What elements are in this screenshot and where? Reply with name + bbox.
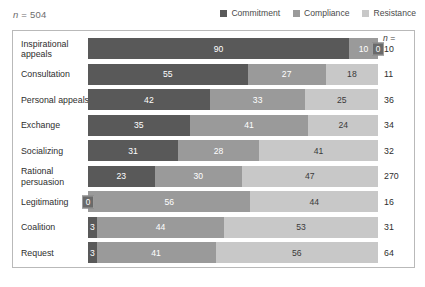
row-n-value: 36 [384, 95, 412, 105]
segment-value: 24 [338, 120, 348, 130]
legend-swatch-compliance [293, 10, 300, 17]
segment-value: 42 [144, 95, 154, 105]
sample-size-label: n = 504 [13, 9, 46, 20]
segment-commitment[interactable]: 42 [88, 89, 210, 110]
segment-value: 3 [90, 222, 95, 232]
legend-item-compliance[interactable]: Compliance [293, 8, 349, 18]
chart-row: Personal appeals 42 33 25 36 [12, 89, 415, 110]
segment-resistance[interactable]: 53 [224, 217, 378, 238]
chart-rows: Inspirational appeals 90 10 0 10 Consult… [12, 38, 415, 263]
segment-value: 31 [128, 146, 138, 156]
category-label: Request [21, 247, 89, 258]
stacked-bar: 55 27 18 [88, 64, 378, 85]
segment-value: 55 [163, 69, 173, 79]
category-label: Coalition [21, 222, 89, 233]
segment-value: 41 [151, 248, 161, 258]
segment-value: 53 [296, 222, 306, 232]
segment-compliance[interactable]: 27 [248, 64, 326, 85]
stacked-bar: 0 56 44 [88, 191, 378, 212]
stacked-bar: 3 44 53 [88, 217, 378, 238]
segment-value: 44 [309, 197, 319, 207]
segment-compliance[interactable]: 33 [210, 89, 306, 110]
legend-label-compliance: Compliance [304, 8, 349, 18]
segment-resistance[interactable]: 41 [259, 140, 378, 161]
category-label: Personal appeals [21, 94, 89, 105]
category-label: Rational persuasion [21, 166, 89, 187]
segment-value: 33 [253, 95, 263, 105]
segment-resistance[interactable]: 44 [250, 191, 378, 212]
segment-compliance[interactable]: 41 [97, 242, 216, 263]
legend-label-commitment: Commitment [231, 8, 280, 18]
segment-value: 41 [244, 120, 254, 130]
segment-compliance[interactable]: 44 [97, 217, 225, 238]
legend-swatch-resistance [362, 10, 369, 17]
segment-value: 47 [305, 171, 315, 181]
stacked-bar: 90 10 0 [88, 38, 378, 59]
segment-value: 0 [372, 42, 384, 55]
chart-row: Inspirational appeals 90 10 0 10 [12, 38, 415, 59]
segment-value: 3 [90, 248, 95, 258]
category-label: Consultation [21, 69, 89, 80]
stacked-bar-chart: n = 504 Commitment Compliance Resistance… [0, 0, 425, 287]
row-n-value: 34 [384, 120, 412, 130]
category-label: Exchange [21, 120, 89, 131]
segment-commitment[interactable]: 23 [88, 166, 155, 187]
chart-row: Exchange 35 41 24 34 [12, 115, 415, 136]
segment-value: 41 [314, 146, 324, 156]
chart-row: Coalition 3 44 53 31 [12, 217, 415, 238]
segment-value: 90 [214, 44, 224, 54]
segment-compliance[interactable]: 41 [190, 115, 309, 136]
segment-compliance[interactable]: 30 [155, 166, 242, 187]
row-n-value: 64 [384, 248, 412, 258]
row-n-value: 11 [384, 69, 412, 79]
segment-value: 56 [292, 248, 302, 258]
segment-resistance[interactable]: 56 [216, 242, 378, 263]
segment-commitment[interactable]: 31 [88, 140, 178, 161]
segment-commitment[interactable]: 90 [88, 38, 349, 59]
segment-commitment[interactable]: 35 [88, 115, 190, 136]
category-label: Legitimating [21, 196, 89, 207]
row-n-value: 31 [384, 222, 412, 232]
chart-row: Rational persuasion 23 30 47 270 [12, 166, 415, 187]
segment-value: 23 [117, 171, 127, 181]
legend-item-commitment[interactable]: Commitment [220, 8, 280, 18]
stacked-bar: 35 41 24 [88, 115, 378, 136]
chart-header: n = 504 Commitment Compliance Resistance [0, 0, 425, 30]
segment-compliance[interactable]: 28 [178, 140, 259, 161]
segment-commitment[interactable]: 3 [88, 217, 97, 238]
chart-row: Socializing 31 28 41 32 [12, 140, 415, 161]
segment-value: 0 [82, 195, 94, 208]
segment-value: 56 [164, 197, 174, 207]
segment-resistance[interactable]: 25 [305, 89, 378, 110]
chart-row: Consultation 55 27 18 11 [12, 64, 415, 85]
row-n-value: 10 [384, 44, 412, 54]
legend-item-resistance[interactable]: Resistance [362, 8, 416, 18]
segment-commitment[interactable]: 3 [88, 242, 97, 263]
stacked-bar: 3 41 56 [88, 242, 378, 263]
legend-swatch-commitment [220, 10, 227, 17]
segment-resistance[interactable]: 24 [308, 115, 378, 136]
segment-value: 30 [193, 171, 203, 181]
chart-row: Legitimating 0 56 44 16 [12, 191, 415, 212]
category-label: Socializing [21, 145, 89, 156]
segment-resistance[interactable]: 18 [326, 64, 378, 85]
segment-resistance[interactable]: 47 [242, 166, 378, 187]
segment-compliance[interactable]: 56 [88, 191, 250, 212]
stacked-bar: 31 28 41 [88, 140, 378, 161]
segment-value: 18 [347, 69, 357, 79]
legend: Commitment Compliance Resistance [220, 8, 416, 18]
segment-value: 44 [156, 222, 166, 232]
chart-row: Request 3 41 56 64 [12, 242, 415, 263]
segment-value: 27 [282, 69, 292, 79]
stacked-bar: 23 30 47 [88, 166, 378, 187]
category-label: Inspirational appeals [21, 38, 89, 59]
stacked-bar: 42 33 25 [88, 89, 378, 110]
legend-label-resistance: Resistance [373, 8, 416, 18]
segment-commitment[interactable]: 55 [88, 64, 248, 85]
row-n-value: 32 [384, 146, 412, 156]
segment-value: 10 [359, 44, 369, 54]
segment-value: 28 [214, 146, 224, 156]
segment-value: 35 [134, 120, 144, 130]
row-n-value: 16 [384, 197, 412, 207]
row-n-value: 270 [384, 171, 412, 181]
